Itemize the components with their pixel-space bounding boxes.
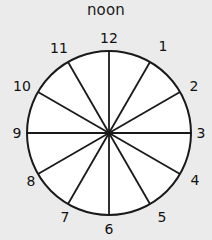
hour-label-5: 5 bbox=[158, 210, 167, 224]
hour-label-7: 7 bbox=[61, 210, 70, 224]
hour-label-8: 8 bbox=[27, 174, 36, 188]
hour-label-10: 10 bbox=[13, 79, 31, 93]
hour-label-3: 3 bbox=[197, 126, 206, 140]
hour-label-2: 2 bbox=[190, 79, 199, 93]
hour-label-11: 11 bbox=[50, 41, 68, 55]
hour-label-9: 9 bbox=[13, 126, 22, 140]
hour-label-12: 12 bbox=[100, 31, 118, 45]
clock-figure: noon 12 1 2 3 4 5 6 7 8 9 10 11 bbox=[0, 0, 212, 240]
hour-label-6: 6 bbox=[105, 222, 114, 236]
clock-center-dot bbox=[107, 131, 111, 135]
hour-label-4: 4 bbox=[191, 173, 200, 187]
hour-label-1: 1 bbox=[159, 39, 168, 53]
